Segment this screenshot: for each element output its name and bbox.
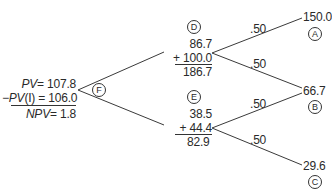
node-d-total: 186.7	[160, 65, 212, 79]
outcome-c-value: 29.6	[303, 159, 326, 173]
outcome-a-marker: A	[308, 27, 322, 41]
npv-divider	[11, 105, 76, 106]
prob-d-up: .50	[250, 22, 266, 36]
branch-f-to-e	[78, 90, 164, 125]
node-f-marker: F	[92, 83, 106, 97]
prob-d-down: .50	[250, 57, 266, 71]
outcome-b-value: 66.7	[303, 84, 326, 98]
outcome-c-marker: C	[308, 175, 322, 189]
node-d-value: 86.7	[160, 37, 212, 51]
binomial-decision-tree: PV= 107.8 −PV(I) = 106.0 NPV= 1.8 F D 86…	[0, 0, 332, 195]
pv-label: PV	[21, 77, 37, 91]
pv-value: = 107.8	[37, 77, 76, 91]
node-e-cash-flow: + 44.4	[160, 121, 212, 135]
npv-value: = 1.8	[50, 107, 76, 121]
node-e-total: 82.9	[187, 135, 210, 149]
branch-f-to-d	[78, 52, 164, 90]
outcome-b-marker: B	[308, 100, 322, 114]
pv-line: PV= 107.8	[2, 77, 76, 91]
investment-label: −PV	[2, 91, 24, 105]
investment-line: −PV(I) = 106.0	[2, 91, 76, 105]
investment-value: (I) = 106.0	[24, 91, 77, 105]
node-e-marker: E	[187, 90, 201, 104]
npv-line: NPV= 1.8	[2, 107, 76, 121]
node-d-cash-flow: + 100.0	[160, 51, 212, 65]
outcome-a-value: 150.0	[303, 10, 332, 24]
prob-e-up: .50	[250, 97, 266, 111]
node-e-value: 38.5	[160, 107, 212, 121]
prob-e-down: .50	[250, 133, 266, 147]
npv-label: NPV	[26, 107, 50, 121]
node-d-marker: D	[187, 20, 201, 34]
